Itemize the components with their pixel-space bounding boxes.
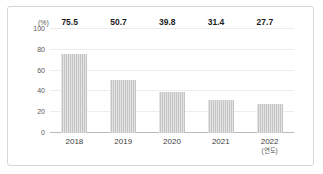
x-axis-tick-label: 2020 xyxy=(148,137,197,155)
bar[interactable]: 31.4 xyxy=(208,100,234,133)
bar[interactable]: 27.7 xyxy=(257,104,283,133)
bar[interactable]: 75.5 xyxy=(61,54,87,133)
y-axis-tick-label: 0 xyxy=(41,129,45,136)
bar-series: 75.550.739.831.427.7 xyxy=(50,29,294,133)
x-axis-tick-label: 2021 xyxy=(196,137,245,155)
y-axis-tick-label: 20 xyxy=(37,108,45,115)
x-axis-tick-label: 2018 xyxy=(50,137,99,155)
x-axis-tick-label: 2022(연도) xyxy=(245,137,294,155)
bar-slot: 75.5 xyxy=(50,29,99,133)
bar-value-label: 31.4 xyxy=(208,18,225,27)
bar-value-label: 39.8 xyxy=(159,18,176,27)
y-axis-tick-label: 60 xyxy=(37,66,45,73)
bar[interactable]: 50.7 xyxy=(110,80,136,133)
y-axis-tick-label: 80 xyxy=(37,45,45,52)
x-axis-tick-label: 2019 xyxy=(99,137,148,155)
bar-slot: 27.7 xyxy=(245,29,294,133)
x-axis-unit-label: (연도) xyxy=(245,147,294,155)
y-axis-tick-label: 100 xyxy=(33,25,45,32)
chart-figure: (%) 020406080100 75.550.739.831.427.7 20… xyxy=(7,6,314,166)
y-axis-tick-label: 40 xyxy=(37,87,45,94)
bar-value-label: 27.7 xyxy=(257,18,274,27)
bar-slot: 50.7 xyxy=(99,29,148,133)
bar-slot: 31.4 xyxy=(196,29,245,133)
bar-value-label: 75.5 xyxy=(61,18,78,27)
bar[interactable]: 39.8 xyxy=(159,92,185,133)
bar-value-label: 50.7 xyxy=(110,18,127,27)
x-axis-labels: 20182019202020212022(연도) xyxy=(50,137,294,155)
bar-slot: 39.8 xyxy=(148,29,197,133)
plot-area: 020406080100 75.550.739.831.427.7 xyxy=(50,29,294,133)
